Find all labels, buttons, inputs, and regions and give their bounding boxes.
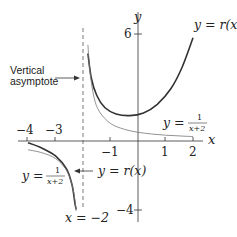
svg-text:y =: y = <box>162 115 185 130</box>
arrow-icon <box>55 76 80 81</box>
asymptote-equation-label: x = −2 <box>65 210 109 225</box>
x-tick-label: −4 <box>16 123 34 137</box>
r-curve-right-branch <box>88 38 193 116</box>
x-ticks <box>27 137 193 141</box>
x-tick-label: −1 <box>101 145 119 159</box>
asymptote-label-line2: asymptote <box>10 75 59 87</box>
svg-text:x+2: x+2 <box>189 124 205 133</box>
y-tick-label: 6 <box>124 27 132 41</box>
x-tick-label: 1 <box>161 145 169 159</box>
x-tick-label: 2 <box>189 145 197 159</box>
y-axis-label: y <box>133 9 142 24</box>
svg-text:1: 1 <box>55 166 60 175</box>
graph: −4 −3 −1 1 2 6 −4 x y Vertical asymptote… <box>0 0 237 237</box>
reciprocal-label-right: y = 1 x+2 <box>162 113 207 133</box>
arrow-icon <box>74 169 93 174</box>
y-tick-label: −4 <box>116 203 134 217</box>
svg-text:x+2: x+2 <box>47 177 63 186</box>
r-label-bottom: y = r(x) <box>97 163 146 178</box>
svg-text:1: 1 <box>197 113 202 122</box>
svg-text:y =: y = <box>21 168 44 183</box>
r-label-top: y = r(x) <box>193 17 237 32</box>
x-axis-label: x <box>208 132 216 147</box>
reciprocal-label-left: y = 1 x+2 <box>21 166 65 186</box>
x-tick-label: −3 <box>45 123 63 137</box>
